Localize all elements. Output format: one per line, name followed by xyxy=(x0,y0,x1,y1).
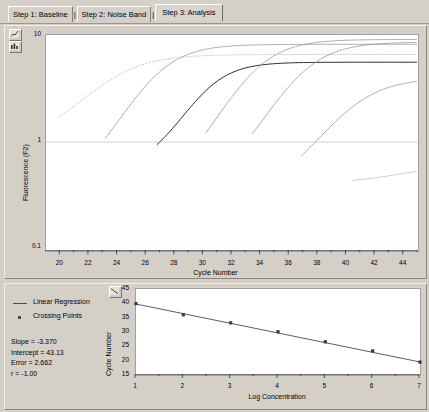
crossing-point-marker xyxy=(182,313,185,316)
y-tick-label: 35 xyxy=(111,313,129,320)
amplification-curves xyxy=(46,35,418,251)
stat-slope: Slope = -3.370 xyxy=(11,337,99,348)
y-tick-label-1: 1 xyxy=(25,136,41,143)
legend: Linear Regression Crossing Points xyxy=(11,297,99,331)
crossing-point-marker xyxy=(134,302,137,305)
amplification-curve xyxy=(252,42,417,134)
standard-curve-plot-area xyxy=(135,288,421,376)
amplification-plot-area xyxy=(45,34,419,252)
crossing-point-marker xyxy=(324,340,327,343)
legend-square-swatch xyxy=(18,316,21,319)
tab-list: Step 1: Baseline | Step 2: Noise Band | … xyxy=(8,6,223,22)
y-tick-label-10: 10 xyxy=(25,30,41,37)
tab-underline xyxy=(0,23,429,24)
x-tick-label: 38 xyxy=(309,259,325,266)
amplification-x-axis-title: Cycle Number xyxy=(5,269,426,276)
standard-curve-graphics xyxy=(136,289,420,375)
x-tick-label: 42 xyxy=(366,259,382,266)
y-tick-label: 45 xyxy=(111,284,129,291)
standard-curve-panel: Linear Regression Crossing Points Slope … xyxy=(4,283,427,410)
x-tick-label: 7 xyxy=(411,382,427,389)
crossing-point-marker xyxy=(371,349,374,352)
tab-step2-noise-band[interactable]: Step 2: Noise Band xyxy=(77,6,152,22)
stat-r: r = -1.00 xyxy=(11,369,99,380)
x-tick-label: 1 xyxy=(127,382,143,389)
legend-label-linear-regression: Linear Regression xyxy=(33,298,90,305)
crossing-point-marker xyxy=(276,330,279,333)
amplification-curve xyxy=(59,54,417,117)
y-tick-label: 30 xyxy=(111,327,129,334)
qpcr-analysis-window: Step 1: Baseline | Step 2: Noise Band | … xyxy=(0,0,429,412)
amplification-chart-panel: Fluorescence (F2) 10 1 0.1 2022242628303… xyxy=(4,25,427,279)
x-tick-label: 3 xyxy=(222,382,238,389)
x-tick-label: 4 xyxy=(269,382,285,389)
x-tick-label: 36 xyxy=(280,259,296,266)
y-tick-label: 15 xyxy=(111,370,129,377)
stat-intercept: Intercept = 43.13 xyxy=(11,348,99,359)
x-tick-label: 28 xyxy=(166,259,182,266)
x-tick-label: 32 xyxy=(223,259,239,266)
y-tick-label: 20 xyxy=(111,356,129,363)
chart-icon[interactable] xyxy=(9,29,22,41)
amplification-x-tick-labels: 20222426283032343638404244 xyxy=(45,259,417,269)
x-tick-label: 26 xyxy=(137,259,153,266)
x-tick-label: 44 xyxy=(395,259,411,266)
x-tick-label: 22 xyxy=(80,259,96,266)
x-tick-label: 5 xyxy=(316,382,332,389)
regression-statistics: Slope = -3.370 Intercept = 43.13 Error =… xyxy=(11,337,99,379)
amplification-curve xyxy=(105,44,417,138)
y-tick-label: 25 xyxy=(111,341,129,348)
bar-chart-icon[interactable] xyxy=(9,41,22,53)
x-tick-label: 6 xyxy=(364,382,380,389)
x-tick-label: 30 xyxy=(194,259,210,266)
amplification-curve xyxy=(206,39,417,133)
standard-curve-y-tick-labels: 45403530252015 xyxy=(111,284,131,394)
x-tick-label: 2 xyxy=(174,382,190,389)
x-tick-label: 40 xyxy=(337,259,353,266)
stat-error: Error = 2.662 xyxy=(11,358,99,369)
tab-step1-baseline[interactable]: Step 1: Baseline xyxy=(8,6,73,22)
crossing-points xyxy=(134,302,421,364)
legend-label-crossing-points: Crossing Points xyxy=(33,312,82,319)
amplification-y-axis-title: Fluorescence (F2) xyxy=(22,144,29,201)
crossing-point-marker xyxy=(418,361,421,364)
crossing-point-marker xyxy=(229,321,232,324)
x-tick-label: 34 xyxy=(252,259,268,266)
x-tick-label: 24 xyxy=(109,259,125,266)
amplification-curve xyxy=(352,171,416,180)
standard-curve-x-axis-title: Log Concentration xyxy=(135,393,419,400)
amplification-curve xyxy=(301,81,417,156)
y-tick-label: 40 xyxy=(111,298,129,305)
tab-bar: Step 1: Baseline | Step 2: Noise Band | … xyxy=(0,0,429,24)
amplification-curve xyxy=(157,62,417,145)
y-tick-label-0-1: 0.1 xyxy=(19,242,41,249)
tab-step3-analysis[interactable]: Step 3: Analysis xyxy=(155,4,222,21)
x-tick-label: 20 xyxy=(51,259,67,266)
standard-curve-x-tick-labels: 1234567 xyxy=(135,382,419,392)
legend-line-swatch xyxy=(13,303,27,304)
